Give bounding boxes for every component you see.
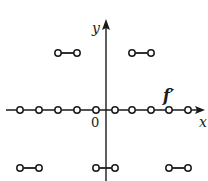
- open-point: [74, 107, 80, 113]
- open-endpoint: [166, 165, 172, 171]
- open-endpoint: [93, 165, 99, 171]
- origin-label: 0: [91, 115, 99, 130]
- y-axis-label: y: [91, 20, 101, 36]
- open-point: [148, 107, 154, 113]
- open-point: [166, 107, 172, 113]
- segment-lower-right: [166, 165, 191, 171]
- x-axis-label: x: [199, 114, 207, 130]
- segment-upper-right: [129, 50, 154, 56]
- open-endpoint: [148, 50, 154, 56]
- open-point: [93, 107, 99, 113]
- function-label: f′: [162, 86, 175, 105]
- open-point: [185, 107, 191, 113]
- open-endpoint: [185, 165, 191, 171]
- open-point: [36, 107, 42, 113]
- open-point: [112, 107, 118, 113]
- open-endpoint: [36, 165, 42, 171]
- open-endpoint: [129, 50, 135, 56]
- open-endpoint: [112, 165, 118, 171]
- derivative-graph: y x 0 f′: [0, 0, 208, 181]
- y-axis: [102, 19, 110, 181]
- open-point: [129, 107, 135, 113]
- open-endpoint: [17, 165, 23, 171]
- open-endpoint: [74, 50, 80, 56]
- segment-lower-left: [17, 165, 42, 171]
- segment-upper-left: [55, 50, 80, 56]
- open-endpoint: [55, 50, 61, 56]
- open-point: [55, 107, 61, 113]
- open-point: [17, 107, 23, 113]
